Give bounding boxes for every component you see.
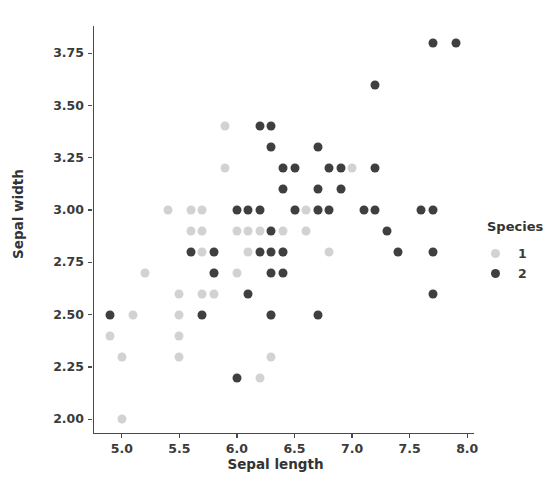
data-point — [382, 227, 391, 236]
x-tick-label: 6.5 — [283, 441, 305, 456]
x-tick-mark — [351, 434, 352, 438]
data-point — [244, 289, 253, 298]
data-point — [279, 227, 288, 236]
x-tick-label: 7.0 — [341, 441, 363, 456]
data-point — [221, 122, 230, 131]
legend-label: 1 — [518, 246, 527, 261]
x-tick-mark — [179, 434, 180, 438]
data-point — [106, 310, 115, 319]
data-point — [255, 373, 264, 382]
data-point — [428, 206, 437, 215]
legend-label: 2 — [518, 266, 527, 281]
data-point — [244, 247, 253, 256]
data-point — [428, 38, 437, 47]
y-tick-label: 3.75 — [53, 45, 84, 60]
data-point — [232, 206, 241, 215]
data-point — [232, 268, 241, 277]
data-point — [129, 310, 138, 319]
data-point — [451, 38, 460, 47]
data-point — [267, 143, 276, 152]
data-point — [325, 247, 334, 256]
legend-entries: 12 — [487, 243, 551, 283]
legend-item[interactable]: 2 — [487, 263, 551, 283]
x-tick-mark — [467, 434, 468, 438]
x-tick-mark — [294, 434, 295, 438]
data-point — [198, 247, 207, 256]
data-point — [371, 206, 380, 215]
plot-data-area — [93, 26, 473, 434]
data-point — [244, 227, 253, 236]
data-point — [325, 206, 334, 215]
data-point — [106, 331, 115, 340]
data-point — [267, 227, 276, 236]
data-point — [117, 415, 126, 424]
x-tick-label: 5.5 — [168, 441, 190, 456]
data-point — [255, 206, 264, 215]
y-tick-label: 2.75 — [53, 254, 84, 269]
data-point — [313, 206, 322, 215]
y-tick-label: 3.00 — [53, 202, 84, 217]
data-point — [198, 289, 207, 298]
data-point — [198, 206, 207, 215]
data-point — [428, 289, 437, 298]
legend-marker-icon — [491, 249, 500, 258]
data-point — [244, 206, 253, 215]
data-point — [279, 268, 288, 277]
y-tick-label: 2.00 — [53, 411, 84, 426]
data-point — [255, 247, 264, 256]
y-tick-mark — [88, 157, 92, 158]
x-tick-label: 8.0 — [456, 441, 478, 456]
data-point — [209, 247, 218, 256]
data-point — [279, 185, 288, 194]
data-point — [209, 289, 218, 298]
y-tick-label: 2.50 — [53, 307, 84, 322]
data-point — [279, 247, 288, 256]
scatter-plot-figure: 2.002.252.502.753.003.253.503.75 5.05.56… — [0, 0, 551, 494]
data-point — [371, 164, 380, 173]
data-point — [255, 227, 264, 236]
data-point — [336, 164, 345, 173]
x-tick-label: 7.5 — [399, 441, 421, 456]
y-tick-mark — [88, 262, 92, 263]
data-point — [175, 352, 184, 361]
data-point — [290, 206, 299, 215]
y-tick-label: 3.50 — [53, 98, 84, 113]
data-point — [267, 247, 276, 256]
data-point — [428, 247, 437, 256]
y-tick-label: 2.25 — [53, 359, 84, 374]
data-point — [198, 227, 207, 236]
data-point — [325, 164, 334, 173]
x-tick-label: 6.0 — [226, 441, 248, 456]
x-axis-title: Sepal length — [0, 456, 551, 472]
y-tick-mark — [88, 314, 92, 315]
data-point — [313, 143, 322, 152]
legend-item[interactable]: 1 — [487, 243, 551, 263]
legend: Species 12 — [487, 219, 551, 283]
data-point — [417, 206, 426, 215]
y-tick-label: 3.25 — [53, 150, 84, 165]
data-point — [255, 122, 264, 131]
legend-title: Species — [487, 219, 551, 234]
x-tick-label: 5.0 — [111, 441, 133, 456]
y-tick-mark — [88, 209, 92, 210]
data-point — [313, 185, 322, 194]
data-point — [359, 206, 368, 215]
data-point — [267, 122, 276, 131]
data-point — [209, 268, 218, 277]
data-point — [186, 227, 195, 236]
data-point — [348, 164, 357, 173]
data-point — [163, 206, 172, 215]
data-point — [336, 185, 345, 194]
data-point — [117, 352, 126, 361]
data-point — [371, 80, 380, 89]
x-tick-mark — [121, 434, 122, 438]
data-point — [186, 206, 195, 215]
y-axis-title: Sepal width — [10, 134, 26, 294]
y-tick-mark — [88, 53, 92, 54]
data-point — [198, 310, 207, 319]
y-tick-mark — [88, 366, 92, 367]
data-point — [302, 227, 311, 236]
legend-marker-icon — [491, 269, 500, 278]
x-tick-mark — [236, 434, 237, 438]
data-point — [232, 227, 241, 236]
